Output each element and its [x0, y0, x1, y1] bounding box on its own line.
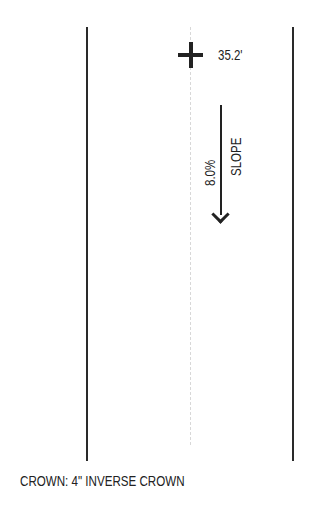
- elevation-label: 35.2': [218, 47, 243, 63]
- slope-label: SLOPE: [228, 138, 244, 176]
- slope-percent: 8.0%: [202, 160, 218, 186]
- crown-label: CROWN: 4" INVERSE CROWN: [20, 473, 185, 489]
- right-edge-line: [292, 27, 294, 461]
- left-edge-line: [86, 27, 88, 461]
- centerline: [190, 27, 191, 445]
